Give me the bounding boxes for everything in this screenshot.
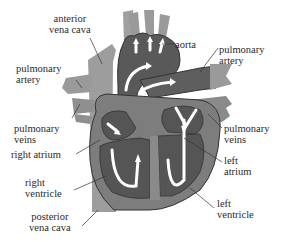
label-pulmonary-veins-right: pulmonary veins bbox=[224, 123, 270, 145]
label-line: veins bbox=[14, 134, 60, 145]
label-anterior-vena-cava: anterior vena cava bbox=[49, 13, 91, 35]
label-line: vena cava bbox=[49, 24, 91, 35]
label-line: pulmonary bbox=[14, 123, 60, 134]
label-line: pulmonary bbox=[224, 123, 270, 134]
label-right-ventricle: right ventricle bbox=[25, 177, 62, 199]
label-pulmonary-artery-right: pulmonary artery bbox=[219, 44, 265, 66]
label-line: artery bbox=[219, 55, 265, 66]
label-line: artery bbox=[16, 74, 62, 85]
label-line: left bbox=[224, 155, 251, 166]
label-line: right bbox=[25, 177, 62, 188]
label-right-atrium: right atrium bbox=[11, 149, 61, 160]
label-line: aorta bbox=[175, 39, 196, 50]
label-line: posterior bbox=[29, 211, 71, 222]
aorta-branch-2 bbox=[144, 10, 154, 36]
label-line: right atrium bbox=[11, 149, 61, 160]
label-left-ventricle: left ventricle bbox=[217, 198, 254, 220]
label-pulmonary-artery-left: pulmonary artery bbox=[16, 63, 62, 85]
label-aorta: aorta bbox=[175, 39, 196, 50]
label-line: veins bbox=[224, 134, 270, 145]
label-line: atrium bbox=[224, 166, 251, 177]
pulmonary-veins-left-shape bbox=[72, 98, 94, 124]
label-line: pulmonary bbox=[219, 44, 265, 55]
pulmonary-artery-right-tip bbox=[210, 64, 232, 90]
label-line: left bbox=[217, 198, 254, 209]
label-line: anterior bbox=[49, 13, 91, 24]
label-line: ventricle bbox=[217, 209, 254, 220]
label-pulmonary-veins-left: pulmonary veins bbox=[14, 123, 60, 145]
label-posterior-vena-cava: posterior vena cava bbox=[29, 211, 71, 233]
label-left-atrium: left atrium bbox=[224, 155, 251, 177]
pulmonary-artery-left-shape bbox=[62, 74, 92, 94]
label-line: vena cava bbox=[29, 222, 71, 233]
label-line: ventricle bbox=[25, 188, 62, 199]
label-line: pulmonary bbox=[16, 63, 62, 74]
